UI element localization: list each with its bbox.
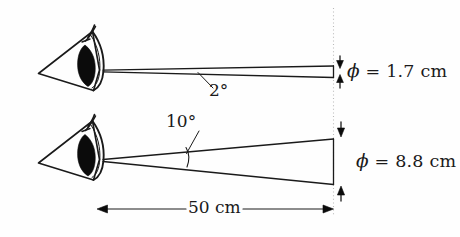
beam-bottom-lower-ray — [103, 162, 334, 185]
phi-symbol-top: ϕ — [347, 60, 360, 81]
arrow-up-icon-top — [337, 75, 344, 83]
eye-icon-top — [39, 25, 104, 91]
beam-bottom-angle-label: 10° — [166, 113, 196, 130]
beam-bottom-diameter-label: ϕ = 8.8 cm — [356, 152, 456, 171]
optics-figure: ϕ = 1.7 cm ϕ = 8.8 cm 2° 10° 50 cm — [0, 0, 460, 237]
arrow-up-icon-bottom — [337, 186, 344, 195]
beam-top — [103, 66, 334, 78]
iris-bottom — [78, 135, 96, 177]
phi-symbol-bottom: ϕ — [356, 150, 369, 171]
phi-bottom-value: = 8.8 cm — [369, 151, 456, 171]
beam-top-upper-ray — [103, 66, 334, 70]
arrow-down-icon-top — [337, 61, 344, 69]
beam-top-angle-label: 2° — [209, 82, 228, 99]
phi-top-value: = 1.7 cm — [360, 61, 447, 81]
distance-value-label: 50 cm — [188, 199, 241, 216]
beam-bottom-upper-ray — [103, 139, 334, 160]
iris-top — [78, 45, 96, 87]
arrow-left-icon-distance — [97, 205, 108, 213]
dimension-arrows-top — [337, 56, 344, 88]
beam-bottom — [103, 139, 334, 185]
beam-top-lower-ray — [103, 72, 334, 78]
dimension-arrows-bottom — [337, 122, 344, 201]
eye-icon-bottom — [39, 115, 104, 181]
arrow-right-icon-distance — [323, 205, 334, 213]
beam-top-diameter-label: ϕ = 1.7 cm — [347, 62, 447, 81]
arrow-down-icon-bottom — [337, 128, 344, 137]
leader-line-angle-bottom — [187, 131, 200, 154]
